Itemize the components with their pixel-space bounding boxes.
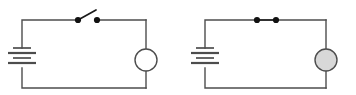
switch-contact-left[interactable]: [254, 17, 260, 23]
switch-contact-right[interactable]: [94, 17, 100, 23]
switch-contact-right[interactable]: [273, 17, 279, 23]
lamp-unlit[interactable]: [135, 49, 157, 71]
wire-top: [205, 20, 326, 48]
battery: [191, 48, 219, 63]
circuit-diagram-figure: [0, 0, 356, 95]
switch-open[interactable]: [75, 10, 100, 23]
lamp-lit[interactable]: [315, 49, 337, 71]
wire-bottom: [22, 68, 146, 88]
switch-contact-left[interactable]: [75, 17, 81, 23]
right-circuit: [191, 17, 337, 88]
circuit-diagram-canvas: [0, 0, 356, 95]
wire-bottom: [205, 68, 326, 88]
left-circuit: [8, 10, 157, 88]
switch-closed[interactable]: [254, 17, 279, 23]
battery: [8, 48, 36, 63]
wire-top-left-segment: [22, 20, 78, 48]
